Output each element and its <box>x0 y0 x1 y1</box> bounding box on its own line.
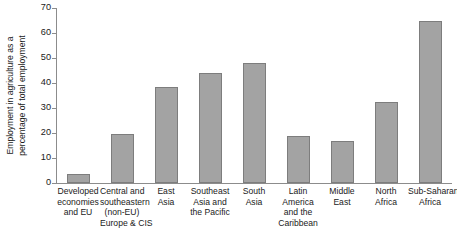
x-axis-tick-label-line: Africa <box>364 197 408 208</box>
bars-layer <box>56 8 452 183</box>
y-axis-tick-label: 70 <box>41 3 51 12</box>
x-axis-tick-label-line: Asia <box>144 197 188 208</box>
x-axis-tick-label-line: Asia <box>232 197 276 208</box>
y-axis-tick-label: 60 <box>41 28 51 37</box>
y-axis-tick-mark <box>52 33 56 34</box>
x-axis-tick-label-line: Middle <box>320 186 364 197</box>
x-axis-tick-label-line: Europe & CIS <box>100 218 144 229</box>
y-axis-tick-mark <box>52 83 56 84</box>
x-axis-tick-label-line: Sub-Saharan <box>408 186 452 197</box>
bar <box>419 21 442 184</box>
x-axis-tick-label-line: Developed <box>56 186 100 197</box>
x-axis-tick-label-line: the Pacific <box>188 207 232 218</box>
x-axis-tick-label-line: and EU <box>56 207 100 218</box>
x-axis-tick-label-line: East <box>144 186 188 197</box>
x-axis-tick-label: Central andsoutheastern(non-EU)Europe & … <box>100 186 144 228</box>
x-axis-tick-label-line: southeastern <box>100 197 144 208</box>
bar <box>287 136 310 184</box>
x-axis-tick-label-line: Asia and <box>188 197 232 208</box>
x-axis-tick-label-line: East <box>320 197 364 208</box>
y-axis-tick-mark <box>52 8 56 9</box>
plot-area <box>56 8 452 183</box>
y-axis-tick-mark <box>52 133 56 134</box>
x-axis-tick-label-line: Southeast <box>188 186 232 197</box>
x-axis-tick-label-line: Caribbean <box>276 218 320 229</box>
y-axis-tick-label: 50 <box>41 53 51 62</box>
x-axis-tick-labels: Developedeconomiesand EUCentral andsouth… <box>56 186 452 244</box>
y-axis-tick-label: 40 <box>41 78 51 87</box>
y-axis-tick-mark <box>52 58 56 59</box>
x-axis-tick-label-line: Latin <box>276 186 320 197</box>
y-axis-title-line-2: percentage of total employment <box>16 35 28 155</box>
y-axis-tick-label: 10 <box>41 153 51 162</box>
x-axis-tick-label-line: North <box>364 186 408 197</box>
x-axis-tick-label-line: Africa <box>408 197 452 208</box>
x-axis-tick-label-line: America <box>276 197 320 208</box>
bar <box>243 63 266 183</box>
bar <box>331 141 354 184</box>
x-axis-tick-label-line: (non-EU) <box>100 207 144 218</box>
y-axis-tick-mark <box>52 158 56 159</box>
x-axis-tick-label: EastAsia <box>144 186 188 207</box>
x-axis-tick-label-line: Central and <box>100 186 144 197</box>
y-axis-tick-mark <box>52 108 56 109</box>
y-axis-title-line-1: Employment in agriculture as a <box>5 35 17 155</box>
x-axis-tick-label: NorthAfrica <box>364 186 408 207</box>
x-axis-tick-label: Sub-SaharanAfrica <box>408 186 452 207</box>
x-axis-tick-label: MiddleEast <box>320 186 364 207</box>
x-axis-tick-label-line: economies <box>56 197 100 208</box>
x-axis-tick-label: LatinAmericaand theCaribbean <box>276 186 320 228</box>
x-axis-line <box>56 183 452 184</box>
x-axis-tick-label: Developedeconomiesand EU <box>56 186 100 218</box>
y-axis-tick-labels: 010203040506070 <box>28 0 55 190</box>
bar <box>375 102 398 183</box>
bar <box>199 73 222 183</box>
x-axis-tick-label: SouthAsia <box>232 186 276 207</box>
x-axis-tick-label-line: and the <box>276 207 320 218</box>
y-axis-tick-label: 20 <box>41 128 51 137</box>
x-axis-tick-label: SoutheastAsia andthe Pacific <box>188 186 232 218</box>
bar-chart: Employment in agriculture as a percentag… <box>0 0 457 244</box>
x-axis-tick-label-line: South <box>232 186 276 197</box>
bar <box>67 174 90 183</box>
bar <box>111 134 134 183</box>
y-axis-tick-mark <box>52 183 56 184</box>
y-axis-tick-label: 0 <box>46 178 51 187</box>
y-axis-tick-label: 30 <box>41 103 51 112</box>
bar <box>155 87 178 183</box>
